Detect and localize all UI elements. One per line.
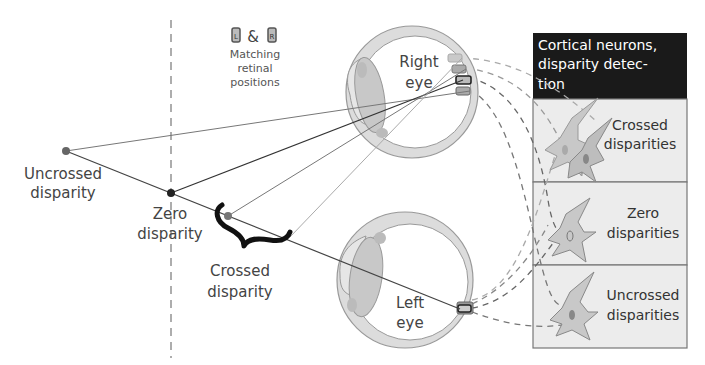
uncrossed-label-line2: disparity xyxy=(30,184,95,202)
right-eye-label-line1: Right xyxy=(399,53,439,71)
panel-header-line2: disparity detec- xyxy=(538,56,648,72)
crossed-label-line2: disparity xyxy=(207,283,272,301)
zero-point xyxy=(167,189,175,197)
row-crossed-line2: disparities xyxy=(604,136,676,152)
row-zero-line2: disparities xyxy=(607,225,679,241)
right-receptor-symbol: R xyxy=(270,33,275,41)
zero-label-line2: disparity xyxy=(137,225,202,243)
legend-line3: positions xyxy=(230,76,280,89)
panel-header-line1: Cortical neurons, xyxy=(538,37,657,53)
left-receptor-symbol: L xyxy=(234,33,238,41)
right-eye xyxy=(346,26,478,158)
row-crossed-line1: Crossed xyxy=(612,117,668,133)
zero-label-line1: Zero xyxy=(153,205,188,223)
legend-line1: Matching xyxy=(230,48,281,61)
crossed-point xyxy=(224,212,232,220)
panel-header-line3: tion xyxy=(538,76,565,92)
crossed-label-line1: Crossed xyxy=(210,262,270,280)
legend-line2: retinal xyxy=(237,62,272,75)
stereo-disparity-diagram: L & R Matching retinal positions Cortica… xyxy=(0,0,705,365)
row-uncrossed-line1: Uncrossed xyxy=(607,287,680,303)
right-eye-label-line2: eye xyxy=(405,74,432,92)
uncrossed-label-line1: Uncrossed xyxy=(24,165,102,183)
legend: L & R Matching retinal positions xyxy=(230,28,281,89)
row-uncrossed-line2: disparities xyxy=(607,307,679,323)
uncrossed-point xyxy=(62,147,70,155)
right-receptor-3 xyxy=(456,76,471,84)
legend-ampersand: & xyxy=(247,28,259,46)
left-eye-label-line1: Left xyxy=(396,294,424,312)
left-eye-label-line2: eye xyxy=(396,314,423,332)
crossed-brace-icon xyxy=(217,205,290,246)
row-zero-line1: Zero xyxy=(627,205,659,221)
